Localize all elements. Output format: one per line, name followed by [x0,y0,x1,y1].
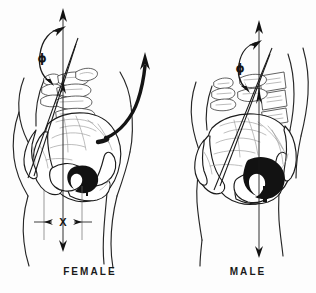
female-lumbar-vertebrae [41,68,97,109]
figure-canvas: ϕ X [0,0,316,293]
caption-female: FEMALE [0,266,180,277]
male-phi-symbol: ϕ [235,61,244,75]
female-dimension-label: X [59,216,67,228]
caption-male: MALE [180,266,316,277]
female-phi-symbol: ϕ [37,51,46,65]
pelvis-comparison-figure: ϕ X [0,0,316,293]
